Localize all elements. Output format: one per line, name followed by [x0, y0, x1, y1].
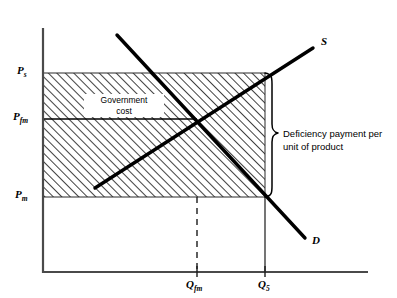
axis-label-q5-sub: 5 — [266, 284, 270, 293]
axis-label-ps-base: P — [17, 64, 24, 76]
axis-label-pm-base: P — [15, 188, 22, 200]
axis-label-q5: Q5 — [258, 279, 270, 293]
axis-label-qfm: Qfm — [186, 279, 202, 293]
deficiency-brace — [265, 73, 278, 197]
government-cost-label: Government cost — [84, 94, 164, 117]
axis-label-qfm-sub: fm — [194, 284, 202, 293]
axis-label-ps: Ps — [17, 65, 27, 79]
deficiency-payment-diagram: Ps Pfm Pm Qfm Q5 S D Government cost Def… — [0, 0, 397, 298]
axis-label-pfm-base: P — [13, 110, 20, 122]
axis-label-pm-sub: m — [22, 194, 28, 203]
axis-label-pfm-sub: fm — [20, 116, 28, 125]
axis-label-q5-base: Q — [258, 278, 266, 290]
supply-curve-label: S — [321, 36, 327, 47]
axis-label-pfm: Pfm — [13, 111, 28, 125]
demand-curve-label: D — [312, 235, 320, 246]
government-cost-region — [43, 73, 265, 197]
axis-label-qfm-base: Q — [186, 278, 194, 290]
axis-label-ps-sub: s — [24, 70, 27, 79]
deficiency-payment-label: Deficiency payment per unit of product — [283, 128, 395, 154]
axis-label-pm: Pm — [15, 189, 28, 203]
